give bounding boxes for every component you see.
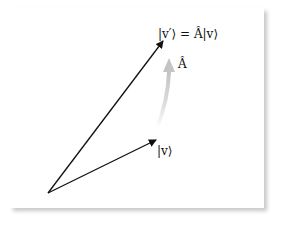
label-original-vector: |v⟩ (157, 144, 173, 158)
label-operator: Â (177, 56, 187, 71)
operator-arrow (157, 58, 175, 128)
vector-v-prime (48, 41, 163, 193)
vector-v (48, 140, 156, 193)
diagram-canvas: |v′⟩ = Â|v⟩ Â |v⟩ (0, 0, 289, 227)
label-transformed-vector: |v′⟩ = Â|v⟩ (158, 26, 218, 41)
